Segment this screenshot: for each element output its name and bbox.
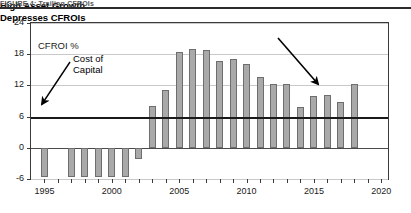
- x-axis-label-2015: 2015: [294, 186, 334, 196]
- y-axis-label--6: -6: [0, 174, 24, 183]
- bar-2017: [337, 102, 344, 148]
- y-tick-24: [27, 23, 31, 24]
- x-tick-2005: [179, 179, 180, 183]
- bar-2010: [243, 64, 250, 148]
- y-axis-label-24: 24: [0, 18, 24, 27]
- x-tick-2000: [112, 179, 113, 183]
- y-axis-label-18: 18: [0, 49, 24, 58]
- x-tick-2007: [206, 179, 207, 183]
- bar-2002: [135, 148, 142, 159]
- x-axis-label-2010: 2010: [227, 186, 267, 196]
- x-tick-2003: [152, 179, 153, 183]
- y-tick-6: [27, 117, 31, 118]
- x-tick-2016: [327, 179, 328, 183]
- bar-2000: [108, 148, 115, 177]
- x-tick-2004: [166, 179, 167, 183]
- y-tick-18: [27, 54, 31, 55]
- x-tick-2017: [341, 179, 342, 183]
- y-axis-label-12: 12: [0, 80, 24, 89]
- x-tick-2011: [260, 179, 261, 183]
- x-tick-2006: [193, 179, 194, 183]
- x-axis-label-2005: 2005: [159, 186, 199, 196]
- bar-2007: [203, 50, 210, 148]
- bar-2006: [189, 49, 196, 148]
- x-tick-1998: [85, 179, 86, 183]
- x-axis-label-2020: 2020: [361, 186, 401, 196]
- plot-area: [31, 23, 388, 179]
- bar-2004: [162, 90, 169, 148]
- bar-2001: [122, 148, 129, 177]
- x-tick-2014: [300, 179, 301, 183]
- annotation-cost-of-capital-line2: Capital: [73, 64, 103, 75]
- bar-1995: [41, 148, 48, 177]
- bar-2009: [230, 59, 237, 147]
- bar-2014: [297, 107, 304, 148]
- x-tick-2010: [247, 179, 248, 183]
- annotation-cost-of-capital-line1: Cost of: [73, 53, 103, 64]
- x-tick-2008: [220, 179, 221, 183]
- bar-1998: [81, 148, 88, 177]
- x-tick-2002: [139, 179, 140, 183]
- x-tick-1997: [71, 179, 72, 183]
- bar-2005: [176, 52, 183, 148]
- figure-caption: FIGURE 4: Trailing CFROIs: [0, 0, 411, 6]
- bar-2003: [149, 106, 156, 148]
- x-tick-2015: [314, 179, 315, 183]
- x-tick-1996: [58, 179, 59, 183]
- x-tick-2001: [125, 179, 126, 183]
- annotation-cost-of-capital: Cost of Capital: [73, 53, 103, 75]
- bar-1997: [68, 148, 75, 177]
- x-tick-1999: [98, 179, 99, 183]
- bar-2011: [257, 77, 264, 148]
- y-tick--6: [27, 179, 31, 180]
- caption-divider: [0, 7, 411, 9]
- x-tick-2012: [273, 179, 274, 183]
- y-tick-12: [27, 85, 31, 86]
- x-tick-2013: [287, 179, 288, 183]
- bar-2016: [324, 95, 331, 148]
- y-axis-label-6: 6: [0, 112, 24, 121]
- cfroi-axis-label: CFROI %: [38, 40, 79, 51]
- gridline-24: [31, 23, 388, 24]
- bar-1999: [95, 148, 102, 177]
- x-axis-label-2000: 2000: [92, 186, 132, 196]
- x-tick-2009: [233, 179, 234, 183]
- x-tick-2018: [354, 179, 355, 183]
- x-axis-label-1995: 1995: [24, 186, 64, 196]
- bar-2008: [216, 61, 223, 147]
- y-tick-0: [27, 148, 31, 149]
- y-axis-label-0: 0: [0, 143, 24, 152]
- x-tick-1995: [44, 179, 45, 183]
- bar-2015: [310, 96, 317, 147]
- x-tick-2019: [368, 179, 369, 183]
- cost-of-capital-line: [31, 117, 388, 119]
- chart-figure: FIGURE 4: Trailing CFROIs CFROI % Cost o…: [0, 0, 411, 213]
- x-tick-2020: [381, 179, 382, 183]
